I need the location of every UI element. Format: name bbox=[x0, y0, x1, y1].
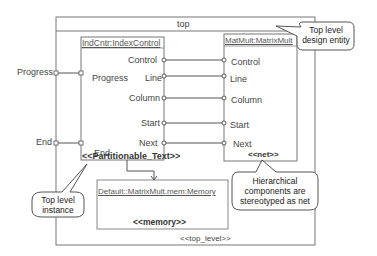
matrix-mult-port-start: Start bbox=[230, 120, 249, 130]
callout-line: components are bbox=[232, 186, 318, 196]
matrix-mult-stereotype: <<net>> bbox=[248, 150, 279, 160]
end-inner-port[interactable] bbox=[79, 141, 83, 145]
index-control-port-line: Line bbox=[145, 73, 162, 83]
index-control-stereotype: <<Partitionable_Text>> bbox=[82, 151, 180, 161]
index-control-port-start: Start bbox=[141, 118, 160, 128]
callout-line: design entity bbox=[298, 35, 354, 45]
callout-line: stereotyped as net bbox=[232, 196, 318, 206]
callout-line: instance bbox=[32, 205, 84, 215]
index-control-title[interactable]: IndCntr:IndexControl bbox=[82, 38, 160, 48]
matrix-mult-title[interactable]: MatMult:MatrixMult bbox=[225, 36, 293, 46]
callout-line: Hierarchical bbox=[232, 176, 318, 186]
memory-title[interactable]: Default::MatrixMult.mem:Memory bbox=[98, 187, 216, 197]
callout-line: Top level bbox=[298, 25, 354, 35]
matrix-mult-port-control: Control bbox=[231, 57, 260, 67]
top-entity-box[interactable] bbox=[56, 17, 315, 245]
index-control-port-column: Column bbox=[129, 93, 160, 103]
matrix-mult-port-next: Next bbox=[233, 139, 252, 149]
callout-line: Top level bbox=[32, 195, 84, 205]
index-control-port-control: Control bbox=[128, 55, 157, 65]
index-control-port-progress: Progress bbox=[92, 73, 128, 83]
callout-top-level-instance-text: Top level instance bbox=[32, 195, 84, 215]
external-port-progress-label: Progress bbox=[17, 67, 53, 77]
index-control-port-next: Next bbox=[139, 138, 158, 148]
external-port-end-label: End bbox=[36, 137, 52, 147]
memory-stereotype: <<memory>> bbox=[133, 217, 186, 227]
matrix-mult-port-column: Column bbox=[231, 95, 262, 105]
end-outer-port[interactable] bbox=[54, 141, 58, 145]
top-level-stereotype: <<top_level>> bbox=[180, 234, 231, 244]
callout-top-level-entity-text: Top level design entity bbox=[298, 25, 354, 45]
top-entity-title: top bbox=[177, 19, 190, 29]
callout-hierarchical-text: Hierarchical components are stereotyped … bbox=[232, 176, 318, 206]
matrix-mult-port-line: Line bbox=[230, 74, 247, 84]
progress-outer-port[interactable] bbox=[54, 71, 58, 75]
progress-inner-port[interactable] bbox=[79, 71, 83, 75]
